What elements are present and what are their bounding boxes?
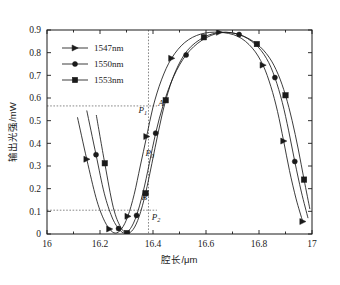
marker-1553nm-4 xyxy=(124,230,129,235)
x-tick-label-4: 16.8 xyxy=(251,239,268,249)
legend-label-1553nm: 1553nm xyxy=(94,75,124,85)
legend-label-1547nm: 1547nm xyxy=(94,43,124,53)
y-axis-title: 输出光强/mW xyxy=(7,102,18,162)
marker-1553nm-13 xyxy=(201,35,206,40)
legend-label-1550nm: 1550nm xyxy=(94,59,124,69)
y-tick-label-1: 0.1 xyxy=(29,207,41,217)
marker-1550nm-16 xyxy=(237,32,242,37)
annotation-subscript: 1 xyxy=(144,109,147,116)
y-tick-label-7: 0.7 xyxy=(29,71,41,81)
y-tick-label-2: 0.2 xyxy=(29,184,41,194)
legend-marker-1553nm xyxy=(72,77,77,82)
y-tick-label-6: 0.6 xyxy=(29,93,41,103)
x-tick-label-1: 16.2 xyxy=(92,239,109,249)
x-tick-label-0: 16 xyxy=(42,239,52,249)
marker-1550nm-19 xyxy=(272,75,277,80)
y-tick-label-0: 0 xyxy=(36,229,41,239)
marker-1550nm-4 xyxy=(116,226,121,231)
annotation-subscript: 2 xyxy=(157,216,160,223)
y-tick-label-9: 0.9 xyxy=(29,25,41,35)
y-tick-label-5: 0.5 xyxy=(29,116,41,126)
figure-container: 1616.216.416.616.817 00.10.20.30.40.50.6… xyxy=(0,0,340,285)
marker-1553nm-19 xyxy=(283,93,288,98)
marker-1550nm-7 xyxy=(134,213,139,218)
marker-1550nm-13 xyxy=(184,52,189,57)
plot-area-background xyxy=(47,30,312,234)
cavity-length-response-chart: 1616.216.416.616.817 00.10.20.30.40.50.6… xyxy=(0,0,340,285)
x-tick-label-2: 16.4 xyxy=(145,239,162,249)
annotation-B: B xyxy=(142,192,148,202)
y-tick-label-3: 0.3 xyxy=(29,161,41,171)
y-tick-label-8: 0.8 xyxy=(29,48,41,58)
x-axis-title: 腔长/μm xyxy=(161,254,197,265)
annotation-A: A xyxy=(157,98,164,108)
marker-1553nm-10 xyxy=(163,98,168,103)
marker-1550nm-10 xyxy=(153,131,158,136)
marker-1553nm-1 xyxy=(102,161,107,166)
y-tick-label-4: 0.4 xyxy=(29,139,41,149)
marker-1553nm-16 xyxy=(254,41,259,46)
legend-marker-1550nm xyxy=(73,62,78,67)
marker-1553nm-22 xyxy=(301,177,306,182)
marker-1550nm-1 xyxy=(94,152,99,157)
marker-1550nm-22 xyxy=(292,159,297,164)
x-tick-label-5: 17 xyxy=(307,239,317,249)
x-tick-label-3: 16.6 xyxy=(198,239,215,249)
